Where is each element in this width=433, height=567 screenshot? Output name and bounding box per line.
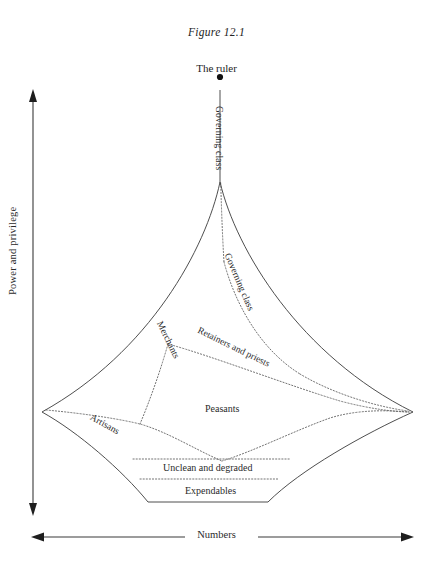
diagram-canvas — [0, 0, 433, 567]
label-expendables: Expendables — [185, 486, 236, 496]
label-governing-spire: Governing class — [214, 106, 224, 170]
divider-artisans — [46, 410, 222, 461]
ruler-dot — [217, 74, 223, 80]
y-axis — [29, 89, 37, 516]
y-axis-arrow-down-icon — [29, 503, 37, 516]
divider-governing-to-right-tip — [300, 374, 408, 411]
divider-retainers-peasants — [168, 344, 409, 412]
label-peasants: Peasants — [205, 404, 239, 414]
y-axis-arrow-up-icon — [29, 89, 37, 102]
figure-container: Figure 12.1 The ruler — [0, 0, 433, 567]
outline-lower-right — [268, 412, 413, 502]
y-axis-label: Power and privilege — [8, 207, 19, 295]
x-axis-label: Numbers — [0, 530, 433, 541]
divider-peasants-lower-right — [222, 411, 409, 461]
outline-upper-left — [42, 182, 220, 412]
divider-merchants — [140, 344, 168, 424]
label-unclean-and-degraded: Unclean and degraded — [163, 463, 252, 473]
